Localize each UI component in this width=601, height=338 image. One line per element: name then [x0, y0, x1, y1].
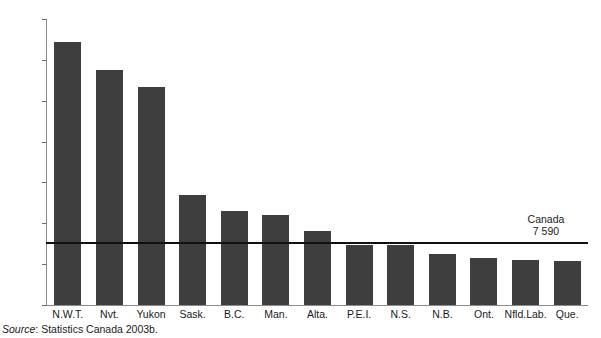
canada-reference-label: Canada 7 590	[486, 213, 601, 237]
source-label: Source	[2, 323, 35, 335]
bar-slot	[304, 14, 331, 305]
plot-area: 05 00010 00015 00020 00025 00030 00035 0…	[46, 14, 588, 306]
bar-slot	[387, 14, 414, 305]
x-axis-line	[46, 305, 588, 306]
y-axis-tick-mark	[42, 305, 47, 306]
bar-slot	[54, 14, 81, 305]
bar-slot	[179, 14, 206, 305]
source-note: Source: Statistics Canada 2003b.	[2, 323, 158, 336]
source-citation: Statistics Canada 2003b.	[41, 323, 158, 335]
bar	[262, 215, 289, 305]
bar	[221, 211, 248, 305]
bar	[512, 260, 539, 305]
bar	[554, 261, 581, 305]
bar	[138, 87, 165, 305]
bar	[470, 258, 497, 305]
bar-slot	[429, 14, 456, 305]
canada-label-value: 7 590	[486, 225, 601, 237]
bar-slot	[346, 14, 373, 305]
bar	[179, 195, 206, 305]
bar-slot	[512, 14, 539, 305]
bar	[387, 245, 414, 305]
bar	[429, 254, 456, 305]
bar-slot	[554, 14, 581, 305]
bar	[54, 42, 81, 305]
canada-label-name: Canada	[486, 213, 601, 225]
canada-reference-line	[46, 242, 588, 244]
x-axis-label-que: Que.	[527, 308, 601, 321]
bar-slot	[96, 14, 123, 305]
bar-slot	[470, 14, 497, 305]
figure-container: 05 00010 00015 00020 00025 00030 00035 0…	[0, 0, 601, 338]
bar-slot	[138, 14, 165, 305]
bar-series	[47, 14, 588, 305]
bar	[96, 70, 123, 305]
bar-slot	[221, 14, 248, 305]
bar-slot	[262, 14, 289, 305]
x-axis-category-labels: N.W.T.Nvt.YukonSask.B.C.Man.Alta.P.E.I.N…	[46, 308, 588, 324]
bar	[346, 245, 373, 305]
